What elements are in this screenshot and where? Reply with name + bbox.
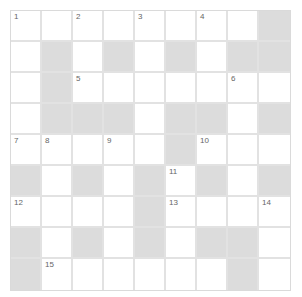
crossword-cell[interactable]: 11 xyxy=(166,166,197,197)
crossword-cell[interactable] xyxy=(73,259,104,290)
black-square xyxy=(42,73,73,104)
black-square xyxy=(228,228,259,259)
crossword-cell[interactable] xyxy=(73,42,104,73)
crossword-cell[interactable] xyxy=(135,135,166,166)
black-square xyxy=(73,166,104,197)
crossword-cell[interactable] xyxy=(166,228,197,259)
crossword-cell[interactable] xyxy=(42,228,73,259)
crossword-cell[interactable] xyxy=(104,259,135,290)
black-square xyxy=(135,197,166,228)
crossword-grid: 123456789101112131415 xyxy=(10,10,291,291)
crossword-cell[interactable] xyxy=(259,259,290,290)
crossword-cell[interactable] xyxy=(104,166,135,197)
black-square xyxy=(11,228,42,259)
crossword-cell[interactable] xyxy=(197,197,228,228)
crossword-cell[interactable] xyxy=(228,166,259,197)
crossword-cell[interactable] xyxy=(197,42,228,73)
clue-number: 2 xyxy=(76,13,80,21)
clue-number: 3 xyxy=(138,13,142,21)
black-square xyxy=(104,104,135,135)
crossword-cell[interactable]: 4 xyxy=(197,11,228,42)
crossword-cell[interactable]: 9 xyxy=(104,135,135,166)
crossword-cell[interactable]: 6 xyxy=(228,73,259,104)
crossword-cell[interactable]: 14 xyxy=(259,197,290,228)
black-square xyxy=(259,42,290,73)
black-square xyxy=(228,259,259,290)
crossword-cell[interactable] xyxy=(135,104,166,135)
black-square xyxy=(197,166,228,197)
black-square xyxy=(197,228,228,259)
crossword-cell[interactable] xyxy=(73,197,104,228)
crossword-cell[interactable] xyxy=(166,259,197,290)
crossword-cell[interactable]: 3 xyxy=(135,11,166,42)
black-square xyxy=(104,42,135,73)
black-square xyxy=(42,104,73,135)
crossword-cell[interactable] xyxy=(228,197,259,228)
clue-number: 1 xyxy=(14,13,18,21)
black-square xyxy=(135,228,166,259)
black-square xyxy=(73,104,104,135)
crossword-cell[interactable] xyxy=(197,259,228,290)
crossword-cell[interactable] xyxy=(135,259,166,290)
crossword-cell[interactable]: 10 xyxy=(197,135,228,166)
black-square xyxy=(259,104,290,135)
crossword-cell[interactable] xyxy=(11,73,42,104)
clue-number: 15 xyxy=(45,261,54,269)
clue-number: 9 xyxy=(107,137,111,145)
crossword-cell[interactable]: 12 xyxy=(11,197,42,228)
black-square xyxy=(73,228,104,259)
black-square xyxy=(197,104,228,135)
crossword-cell[interactable] xyxy=(11,42,42,73)
crossword-cell[interactable]: 15 xyxy=(42,259,73,290)
crossword-cell[interactable]: 8 xyxy=(42,135,73,166)
clue-number: 7 xyxy=(14,137,18,145)
black-square xyxy=(42,42,73,73)
crossword-cell[interactable] xyxy=(228,104,259,135)
black-square xyxy=(166,42,197,73)
clue-number: 13 xyxy=(169,199,178,207)
black-square xyxy=(135,166,166,197)
crossword-cell[interactable] xyxy=(42,197,73,228)
clue-number: 8 xyxy=(45,137,49,145)
crossword-cell[interactable] xyxy=(259,73,290,104)
clue-number: 5 xyxy=(76,75,80,83)
crossword-cell[interactable] xyxy=(104,197,135,228)
crossword-cell[interactable] xyxy=(135,73,166,104)
crossword-cell[interactable]: 7 xyxy=(11,135,42,166)
clue-number: 12 xyxy=(14,199,23,207)
crossword-cell[interactable] xyxy=(11,104,42,135)
crossword-cell[interactable] xyxy=(228,11,259,42)
crossword-cell[interactable]: 13 xyxy=(166,197,197,228)
clue-number: 14 xyxy=(262,199,271,207)
crossword-cell[interactable] xyxy=(104,11,135,42)
crossword-cell[interactable] xyxy=(166,73,197,104)
crossword-cell[interactable] xyxy=(197,73,228,104)
crossword-cell[interactable] xyxy=(166,11,197,42)
black-square xyxy=(166,135,197,166)
crossword-cell[interactable] xyxy=(135,42,166,73)
crossword-cell[interactable] xyxy=(42,166,73,197)
clue-number: 10 xyxy=(200,137,209,145)
crossword-cell[interactable] xyxy=(259,228,290,259)
crossword-cell[interactable] xyxy=(228,135,259,166)
clue-number: 6 xyxy=(231,75,235,83)
black-square xyxy=(11,259,42,290)
black-square xyxy=(166,104,197,135)
crossword-cell[interactable] xyxy=(104,73,135,104)
crossword-cell[interactable]: 1 xyxy=(11,11,42,42)
crossword-cell[interactable] xyxy=(42,11,73,42)
clue-number: 4 xyxy=(200,13,204,21)
crossword-cell[interactable] xyxy=(259,135,290,166)
black-square xyxy=(259,11,290,42)
crossword-cell[interactable] xyxy=(104,228,135,259)
black-square xyxy=(259,166,290,197)
crossword-cell[interactable]: 5 xyxy=(73,73,104,104)
black-square xyxy=(11,166,42,197)
black-square xyxy=(228,42,259,73)
crossword-cell[interactable] xyxy=(73,135,104,166)
crossword-cell[interactable]: 2 xyxy=(73,11,104,42)
clue-number: 11 xyxy=(169,168,177,176)
